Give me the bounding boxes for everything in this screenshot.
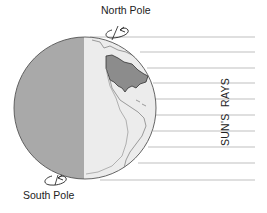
south-pole-label: South Pole (23, 189, 74, 201)
south-axis (55, 175, 58, 185)
north-pole-label: North Pole (101, 4, 151, 16)
day-side (84, 30, 164, 190)
earth-sun-diagram: North Pole South Pole SUN'S RAYS (0, 0, 267, 213)
globe (10, 30, 164, 190)
suns-rays-label: SUN'S RAYS (219, 78, 231, 146)
night-side (10, 30, 84, 190)
